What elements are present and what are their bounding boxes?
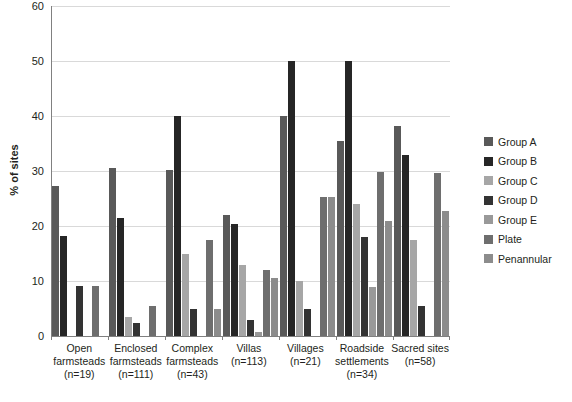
- x-category-label-line: Enclosed: [109, 342, 164, 355]
- bar[interactable]: [149, 306, 156, 336]
- bar[interactable]: [296, 281, 303, 336]
- y-axis-title-text: % of sites: [8, 144, 20, 195]
- y-axis-title: % of sites: [4, 0, 24, 340]
- bar[interactable]: [214, 309, 221, 337]
- bar[interactable]: [133, 323, 140, 336]
- bar[interactable]: [125, 317, 132, 336]
- bar[interactable]: [361, 237, 368, 336]
- y-tick-label: 20: [32, 220, 44, 232]
- bar[interactable]: [271, 278, 278, 336]
- bar[interactable]: [190, 309, 197, 337]
- legend-label: Group B: [498, 155, 537, 167]
- bar-group: [222, 6, 279, 336]
- bar[interactable]: [385, 221, 392, 336]
- x-category-label-line: Roadside: [335, 342, 390, 355]
- bar[interactable]: [328, 197, 335, 336]
- x-category-label-line: Villages: [278, 342, 333, 355]
- x-tick-mark: [165, 336, 166, 340]
- axis-baseline: [51, 336, 450, 337]
- x-category-label-line: (n=43): [165, 368, 220, 381]
- bar[interactable]: [280, 116, 287, 336]
- x-category-label-line: Sacred sites: [391, 342, 449, 355]
- bar[interactable]: [206, 240, 213, 336]
- bar-group: [51, 6, 108, 336]
- y-axis-tick-labels: 0102030405060: [22, 6, 48, 336]
- x-category-label-line: (n=111): [109, 368, 164, 381]
- x-tick-mark: [51, 336, 52, 340]
- bar[interactable]: [223, 215, 230, 336]
- bar[interactable]: [288, 61, 295, 336]
- x-category-label: Villas(n=113): [221, 342, 278, 381]
- bar[interactable]: [337, 141, 344, 336]
- bar[interactable]: [117, 218, 124, 336]
- bar[interactable]: [182, 254, 189, 337]
- bar[interactable]: [442, 211, 449, 336]
- legend-swatch-icon: [484, 254, 493, 263]
- y-tick-label: 0: [38, 330, 44, 342]
- legend-item[interactable]: Plate: [484, 230, 570, 250]
- bar[interactable]: [60, 236, 67, 336]
- bar[interactable]: [109, 168, 116, 336]
- bar-chart-figure: % of sites 0102030405060 Openfarmsteads(…: [0, 0, 572, 402]
- bar-groups: [51, 6, 450, 336]
- legend-swatch-icon: [484, 157, 493, 166]
- bar[interactable]: [377, 172, 384, 336]
- bar[interactable]: [174, 116, 181, 336]
- x-category-label: Enclosedfarmsteads(n=111): [108, 342, 165, 381]
- x-category-label-line: (n=113): [222, 355, 277, 368]
- x-tick-mark: [393, 336, 394, 340]
- bar-group: [279, 6, 336, 336]
- x-category-label-line: Complex: [165, 342, 220, 355]
- x-category-label-line: Villas: [222, 342, 277, 355]
- bar[interactable]: [231, 224, 238, 336]
- bar[interactable]: [239, 265, 246, 337]
- x-category-label-line: settlements: [335, 355, 390, 368]
- y-tick-label: 60: [32, 0, 44, 12]
- legend-item[interactable]: Group E: [484, 210, 570, 230]
- bar[interactable]: [76, 286, 83, 336]
- legend-label: Penannular: [498, 253, 552, 265]
- x-tick-mark: [222, 336, 223, 340]
- legend-item[interactable]: Group A: [484, 132, 570, 152]
- x-tick-mark: [279, 336, 280, 340]
- x-category-label-line: (n=19): [52, 368, 107, 381]
- x-category-label: Sacred sites(n=58): [390, 342, 450, 381]
- bar[interactable]: [92, 286, 99, 336]
- bar-group: [165, 6, 222, 336]
- y-tick-label: 50: [32, 55, 44, 67]
- bar[interactable]: [418, 306, 425, 336]
- legend-label: Group D: [498, 194, 538, 206]
- bar[interactable]: [247, 320, 254, 337]
- bar[interactable]: [353, 204, 360, 336]
- y-tick-label: 40: [32, 110, 44, 122]
- legend-item[interactable]: Penannular: [484, 249, 570, 269]
- bar[interactable]: [263, 270, 270, 336]
- bar[interactable]: [166, 170, 173, 336]
- legend-label: Group E: [498, 214, 537, 226]
- bar[interactable]: [402, 155, 409, 337]
- bar[interactable]: [304, 309, 311, 337]
- legend-swatch-icon: [484, 215, 493, 224]
- bar[interactable]: [394, 126, 401, 336]
- legend-item[interactable]: Group D: [484, 191, 570, 211]
- x-category-label-line: Open: [52, 342, 107, 355]
- x-category-label: Openfarmsteads(n=19): [51, 342, 108, 381]
- bar[interactable]: [52, 186, 59, 336]
- bar[interactable]: [434, 173, 441, 336]
- x-category-label-line: (n=34): [335, 368, 390, 381]
- legend-swatch-icon: [484, 137, 493, 146]
- bar[interactable]: [255, 332, 262, 336]
- bar[interactable]: [345, 61, 352, 336]
- bar[interactable]: [410, 240, 417, 336]
- x-category-label-line: farmsteads: [109, 355, 164, 368]
- y-tick-label: 30: [32, 165, 44, 177]
- x-category-label-line: (n=21): [278, 355, 333, 368]
- legend-item[interactable]: Group C: [484, 171, 570, 191]
- x-category-label-line: farmsteads: [165, 355, 220, 368]
- bar-group: [393, 6, 450, 336]
- bar[interactable]: [320, 197, 327, 336]
- legend-item[interactable]: Group B: [484, 152, 570, 172]
- bar-group: [336, 6, 393, 336]
- legend-label: Plate: [498, 233, 522, 245]
- bar[interactable]: [369, 287, 376, 337]
